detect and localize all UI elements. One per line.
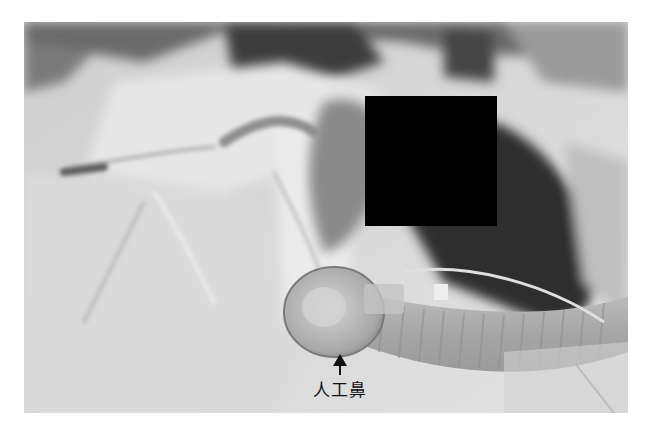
arrow-stem	[339, 365, 341, 375]
face-redaction-box	[365, 96, 497, 226]
artificial-nose-label: 人工鼻	[300, 376, 380, 401]
annotation-callout: 人工鼻	[300, 354, 380, 404]
